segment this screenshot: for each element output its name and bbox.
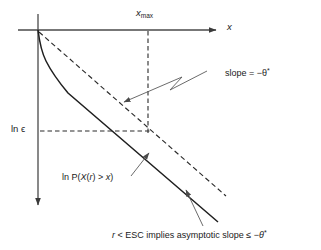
slope-label-leader bbox=[124, 71, 207, 102]
curve-label-prefix: ln P( bbox=[62, 172, 81, 182]
figure-caption: r < ESC implies asymptotic slope ≤ −θ* bbox=[112, 229, 267, 241]
caption-middle-text: implies asymptotic slope ≤ − bbox=[144, 230, 259, 240]
caption-esc: ESC bbox=[125, 230, 144, 240]
curve-label-leader bbox=[131, 153, 149, 176]
figure-canvas bbox=[0, 0, 321, 250]
x-axis-label: x bbox=[227, 22, 232, 32]
caption-superscript: * bbox=[264, 229, 267, 236]
slope-annotation-text: slope = −θ bbox=[225, 68, 267, 78]
curve-label-relation: > bbox=[96, 172, 106, 182]
curve-label-end-paren: ) bbox=[110, 172, 113, 182]
curve-label: ln P(X(r) > x) bbox=[62, 173, 113, 183]
ln-epsilon-tick-label: ln ϵ bbox=[11, 124, 25, 134]
x-max-subscript: max bbox=[141, 12, 153, 19]
log-tail-probability-curve bbox=[38, 30, 218, 222]
x-max-tick-label: xmax bbox=[136, 8, 153, 19]
figure-container: xmax x slope = −θ* ln ϵ ln P(X(r) > x) r… bbox=[0, 0, 321, 250]
caption-leader bbox=[186, 190, 203, 226]
slope-annotation-superscript: * bbox=[267, 67, 270, 74]
slope-annotation-label: slope = −θ* bbox=[225, 67, 270, 79]
caption-relation: < bbox=[115, 230, 125, 240]
